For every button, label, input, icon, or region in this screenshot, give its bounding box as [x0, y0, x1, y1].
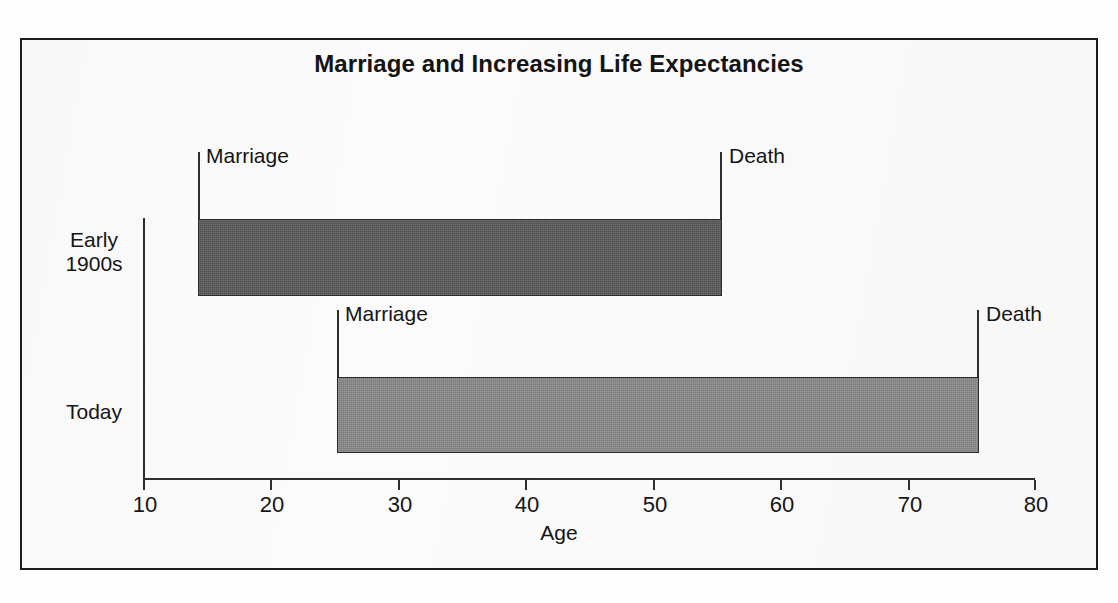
x-tick-label-80: 80 — [1006, 492, 1066, 518]
x-tick-label-60: 60 — [752, 492, 812, 518]
x-tick-label-70: 70 — [880, 492, 940, 518]
marker-label-early-marriage: Marriage — [206, 144, 289, 168]
marker-line-early-marriage — [198, 152, 200, 220]
marker-label-today-death: Death — [986, 302, 1042, 326]
chart-screenshot: Marriage and Increasing Life Expectancie… — [0, 0, 1118, 603]
plot-area: 10 20 30 40 50 60 70 80 Age Early 1900s … — [0, 0, 1118, 603]
x-axis-line — [143, 478, 1035, 480]
category-label-early-line2: 1900s — [52, 252, 136, 276]
category-label-today-line1: Today — [52, 400, 136, 424]
bar-today — [337, 377, 979, 453]
x-axis-title: Age — [0, 521, 1118, 545]
x-tick-mark-40 — [525, 480, 527, 490]
x-tick-mark-10 — [143, 480, 145, 490]
x-tick-mark-70 — [908, 480, 910, 490]
marker-line-today-death — [977, 310, 979, 378]
marker-line-early-death — [720, 152, 722, 220]
marker-line-today-marriage — [337, 310, 339, 378]
x-tick-mark-60 — [780, 480, 782, 490]
category-label-early-1900s: Early 1900s — [52, 228, 136, 275]
x-tick-label-30: 30 — [370, 492, 430, 518]
x-tick-mark-80 — [1034, 480, 1036, 490]
x-tick-mark-50 — [653, 480, 655, 490]
marker-label-early-death: Death — [729, 144, 785, 168]
bar-early-1900s — [198, 219, 722, 296]
marker-label-today-marriage: Marriage — [345, 302, 428, 326]
x-tick-label-50: 50 — [625, 492, 685, 518]
y-axis-line — [143, 218, 145, 480]
x-tick-label-10: 10 — [115, 492, 175, 518]
x-tick-mark-30 — [398, 480, 400, 490]
x-tick-mark-20 — [270, 480, 272, 490]
category-label-today: Today — [52, 400, 136, 424]
category-label-early-line1: Early — [52, 228, 136, 252]
x-tick-label-40: 40 — [497, 492, 557, 518]
x-tick-label-20: 20 — [242, 492, 302, 518]
